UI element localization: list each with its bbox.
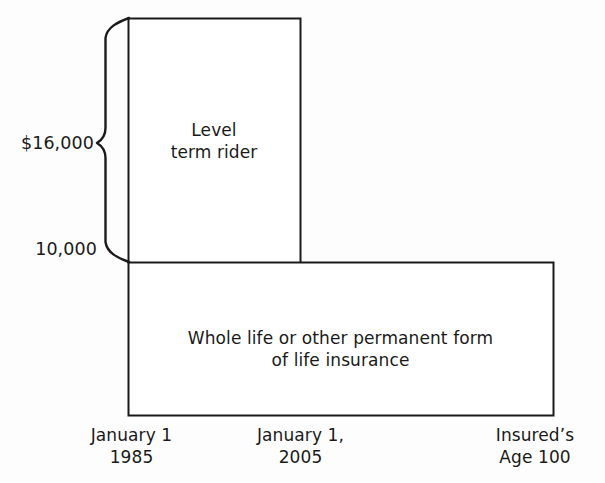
brace-lower-value-label: 10,000 xyxy=(0,238,97,261)
term-rider-box-caption: Level term rider xyxy=(128,119,300,163)
brace-path xyxy=(97,18,129,262)
axis-label-mid-date: January 1, 2005 xyxy=(227,424,374,468)
axis-label-end-age: Insured’s Age 100 xyxy=(470,424,600,468)
brace-upper-value-label: $16,000 xyxy=(0,132,94,155)
left-value-brace xyxy=(97,18,129,262)
permanent-insurance-box-caption: Whole life or other permanent form of li… xyxy=(128,327,553,371)
insurance-coverage-diagram: $16,000 10,000 Level term rider Whole li… xyxy=(0,0,605,483)
axis-label-start-date: January 1 1985 xyxy=(58,424,205,468)
